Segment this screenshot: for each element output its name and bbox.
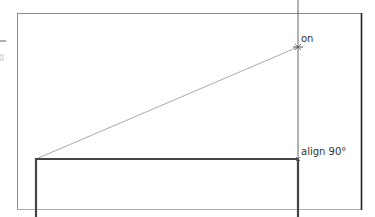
snap-label-align: align 90°	[301, 146, 346, 157]
drawing-canvas[interactable]: on align 90°	[0, 0, 375, 217]
diagonal-line[interactable]	[36, 47, 298, 159]
rectangle-shape[interactable]	[36, 158, 298, 217]
offscreen-marks	[0, 41, 6, 60]
snap-label-on: on	[301, 33, 313, 44]
